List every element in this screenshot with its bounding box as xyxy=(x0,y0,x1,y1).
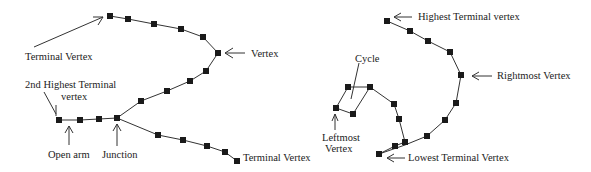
label-vertex: Vertex xyxy=(251,48,279,59)
label-leftmost-2: Vertex xyxy=(325,143,353,154)
label-second-highest-1: 2nd Highest Terminal xyxy=(25,79,116,90)
label-rightmost-vertex: Rightmost Vertex xyxy=(497,70,571,81)
label-open-arm: Open arm xyxy=(48,149,90,160)
label-junction: Junction xyxy=(102,149,138,160)
label-terminal-vertex-bottom: Terminal Vertex xyxy=(243,152,311,163)
label-second-highest-2: vertex xyxy=(61,91,88,102)
label-terminal-vertex-top: Terminal Vertex xyxy=(25,51,93,62)
label-lowest-terminal: Lowest Terminal Vertex xyxy=(408,152,510,163)
label-highest-terminal: Highest Terminal vertex xyxy=(418,11,520,22)
label-cycle: Cycle xyxy=(355,53,380,64)
graph-diagram: Terminal Vertex Vertex 2nd Highest Termi… xyxy=(0,0,591,172)
label-leftmost-1: Leftmost xyxy=(322,132,360,143)
